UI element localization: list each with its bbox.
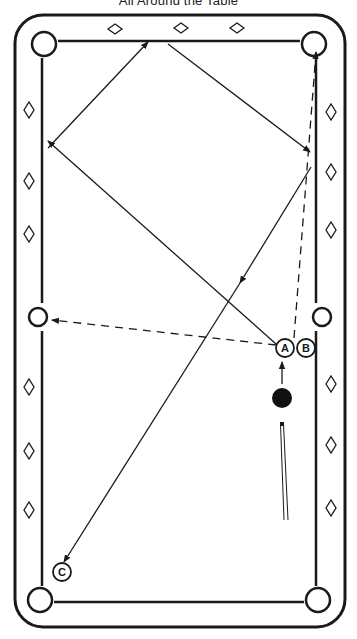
pocket-top-right (302, 32, 326, 56)
ball-label: B (302, 342, 310, 354)
cue-ball-to-side-pocket (52, 320, 276, 345)
diamond-marker (24, 102, 34, 118)
ball-b-to-corner (294, 52, 316, 338)
diamond-marker (108, 24, 122, 34)
diamond-marker (326, 104, 336, 120)
ball-a-leg-4 (240, 167, 311, 283)
cue-ball (272, 388, 292, 408)
diamond-marker (326, 222, 336, 238)
diamond-marker (24, 379, 34, 395)
ball-a-leg-1 (48, 141, 276, 344)
diamond-marker (24, 443, 34, 459)
ball-b: B (297, 339, 315, 357)
pool-table-diagram: ABC (0, 0, 357, 639)
ball-c: C (53, 563, 71, 581)
ball-a-leg-2 (48, 42, 148, 148)
diamond-marker (326, 437, 336, 453)
pocket-bottom-left (28, 588, 52, 612)
cue-stick (280, 422, 288, 520)
diamond-marker (326, 376, 336, 392)
ball-label: A (281, 342, 289, 354)
diamond-marker (24, 173, 34, 189)
diamond-marker (326, 164, 336, 180)
cue-stick-edge (284, 424, 289, 520)
rail-diamonds (24, 23, 336, 518)
diamond-marker (24, 226, 34, 242)
ball-a-leg-3 (168, 44, 310, 152)
pocket-bottom-right (306, 588, 330, 612)
pocket-middle-right (313, 308, 331, 326)
diamond-marker (24, 502, 34, 518)
shot-paths (48, 42, 316, 562)
ball-label: C (58, 566, 66, 578)
diamond-marker (174, 23, 188, 33)
ball-a: A (276, 339, 294, 357)
diamond-marker (230, 23, 244, 33)
cue-tip (280, 422, 284, 426)
diamond-marker (326, 500, 336, 516)
pocket-middle-left (29, 308, 47, 326)
pocket-top-left (32, 32, 56, 56)
balls: ABC (53, 339, 315, 581)
cue-stick-edge (281, 424, 285, 520)
